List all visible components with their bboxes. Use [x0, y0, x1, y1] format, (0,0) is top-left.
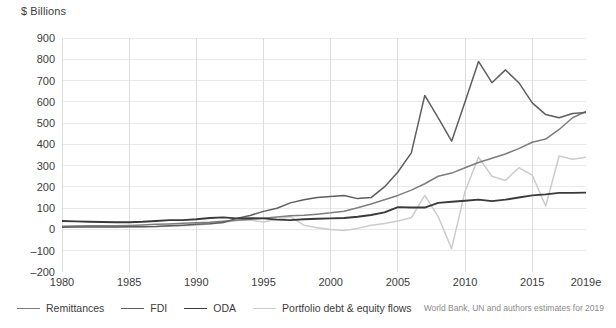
y-axis-tick: –100: [15, 245, 55, 257]
legend-label: Portfolio debt & equity flows: [282, 302, 412, 314]
x-axis-tick: 2000: [318, 276, 342, 288]
y-axis-tick: 0: [15, 223, 55, 235]
series-line-remittances: [62, 111, 586, 226]
chart-plot-svg: [62, 38, 586, 272]
x-axis-tick: 1980: [50, 276, 74, 288]
chart-legend: RemittancesFDIODAPortfolio debt & equity…: [17, 302, 429, 314]
legend-label: FDI: [150, 302, 167, 314]
y-axis-tick: 100: [15, 202, 55, 214]
x-axis-tick: 2010: [453, 276, 477, 288]
legend-swatch-icon: [184, 308, 207, 309]
legend-item-oda[interactable]: ODA: [184, 302, 236, 314]
x-axis-tick: 2015: [520, 276, 544, 288]
plot-area: [62, 38, 586, 272]
x-axis-tick: 1990: [184, 276, 208, 288]
legend-swatch-icon: [121, 308, 144, 309]
vertical-gridlines: [62, 38, 586, 272]
legend-item-portfolio-debt-equity-flows[interactable]: Portfolio debt & equity flows: [253, 302, 412, 314]
horizontal-gridlines: [62, 38, 586, 272]
y-axis-title: $ Billions: [21, 5, 66, 17]
legend-swatch-icon: [17, 308, 40, 309]
y-axis-tick: 300: [15, 160, 55, 172]
y-axis-tick: 400: [15, 138, 55, 150]
x-axis-tick: 2005: [386, 276, 410, 288]
legend-swatch-icon: [253, 308, 276, 309]
x-axis-tick: 1995: [251, 276, 275, 288]
x-axis-tick: 1985: [117, 276, 141, 288]
legend-item-remittances[interactable]: Remittances: [17, 302, 104, 314]
series-lines: [62, 61, 586, 248]
x-axis-tick: 2019e: [571, 276, 602, 288]
legend-item-fdi[interactable]: FDI: [121, 302, 167, 314]
legend-label: Remittances: [46, 302, 104, 314]
source-note: World Bank, UN and authors estimates for…: [424, 303, 604, 313]
chart-container: $ Billions 9008007006005004003002001000–…: [0, 0, 616, 328]
y-axis-tick: 600: [15, 96, 55, 108]
y-axis-tick: 200: [15, 181, 55, 193]
y-axis-tick: 700: [15, 75, 55, 87]
y-axis-tick: 900: [15, 32, 55, 44]
legend-label: ODA: [213, 302, 236, 314]
series-line-portfolio-debt-equity-flows: [62, 156, 586, 249]
y-axis-tick: 500: [15, 117, 55, 129]
y-axis-tick: 800: [15, 53, 55, 65]
